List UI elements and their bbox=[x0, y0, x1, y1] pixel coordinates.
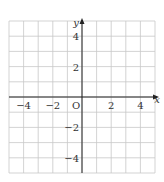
x-tick-label: −4 bbox=[16, 100, 31, 111]
y-tick-label: 2 bbox=[73, 62, 79, 73]
origin-label: O bbox=[72, 100, 80, 111]
y-tick-label: 4 bbox=[73, 31, 79, 42]
coordinate-plane: −4−22442−2−4Oxy bbox=[0, 0, 164, 182]
x-tick-label: −2 bbox=[45, 100, 60, 111]
x-axis-label: x bbox=[154, 94, 160, 105]
x-tick-label: 4 bbox=[137, 100, 143, 111]
y-axis-label: y bbox=[72, 17, 79, 28]
y-tick-label: −4 bbox=[64, 153, 79, 164]
x-tick-label: 2 bbox=[108, 100, 114, 111]
axes bbox=[9, 18, 159, 173]
y-tick-label: −2 bbox=[64, 122, 79, 133]
